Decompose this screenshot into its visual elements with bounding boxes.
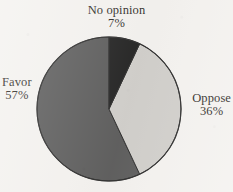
- pie-label-favor: Favor 57%: [2, 76, 32, 102]
- pie-label-no-opinion: No opinion 7%: [0, 4, 233, 30]
- pie-chart-figure: No opinion 7% Oppose 36% Favor 57%: [0, 0, 233, 192]
- pie-label-oppose-value: 36%: [192, 105, 231, 118]
- pie-label-no-opinion-value: 7%: [0, 17, 233, 30]
- pie-label-oppose: Oppose 36%: [192, 92, 231, 118]
- pie-label-favor-value: 57%: [2, 89, 32, 102]
